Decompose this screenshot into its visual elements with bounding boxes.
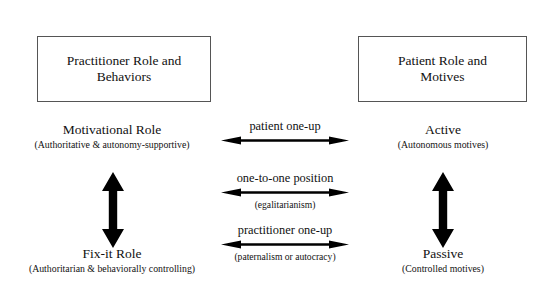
pole-passive-subtitle: (Controlled motives) <box>358 263 528 275</box>
practitioner-role-box-label: Practitioner Role and Behaviors <box>61 53 188 86</box>
pole-fixit-role-subtitle: (Authoritarian & behaviorally controllin… <box>0 263 224 275</box>
double-headed-vertical-arrow-icon <box>428 172 458 248</box>
pole-active-title: Active <box>358 122 528 138</box>
double-headed-horizontal-arrow-icon <box>221 187 349 198</box>
connector-one-to-one-position-subtitle: (egalitarianism) <box>218 200 352 211</box>
pole-active: Active (Autonomous motives) <box>358 122 528 150</box>
pole-motivational-role-subtitle: (Authoritative & autonomy-supportive) <box>0 139 224 151</box>
pole-passive: Passive (Controlled motives) <box>358 246 528 274</box>
pole-active-subtitle: (Autonomous motives) <box>358 139 528 151</box>
double-headed-horizontal-arrow-icon <box>221 239 349 250</box>
patient-role-box: Patient Role and Motives <box>358 36 527 102</box>
connector-one-to-one-position-label: one-to-one position <box>218 172 352 186</box>
connector-one-to-one-position: one-to-one position (egalitarianism) <box>218 172 352 210</box>
double-headed-vertical-arrow-icon <box>98 172 128 248</box>
connector-patient-one-up-label: patient one-up <box>218 120 352 134</box>
pole-motivational-role: Motivational Role (Authoritative & auton… <box>0 122 224 150</box>
pole-passive-title: Passive <box>358 246 528 262</box>
pole-motivational-role-title: Motivational Role <box>0 122 224 138</box>
patient-role-box-label: Patient Role and Motives <box>392 53 493 86</box>
diagram-canvas: Practitioner Role and Behaviors Patient … <box>0 0 545 292</box>
double-headed-horizontal-arrow-icon <box>221 135 349 146</box>
connector-practitioner-one-up: practitioner one-up (paternalism or auto… <box>218 224 352 262</box>
pole-fixit-role: Fix-it Role (Authoritarian & behaviorall… <box>0 246 224 274</box>
connector-practitioner-one-up-label: practitioner one-up <box>218 224 352 238</box>
practitioner-role-box: Practitioner Role and Behaviors <box>37 36 211 102</box>
connector-patient-one-up: patient one-up <box>218 120 352 146</box>
connector-practitioner-one-up-subtitle: (paternalism or autocracy) <box>218 252 352 263</box>
pole-fixit-role-title: Fix-it Role <box>0 246 224 262</box>
